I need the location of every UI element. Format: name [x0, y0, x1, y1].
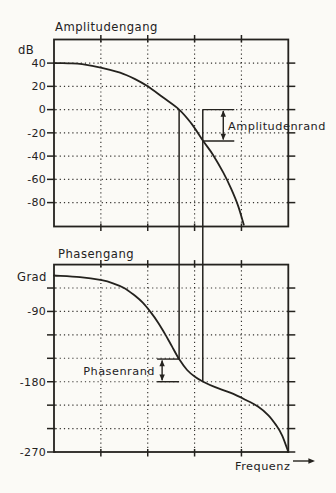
phase-response-ytick-label: -270 — [20, 446, 46, 459]
frequency-axis-label: Frequenz — [235, 460, 290, 473]
phase-title: Phasengang — [58, 247, 134, 261]
gain-margin-arrowhead-up — [221, 111, 226, 117]
amplitude-response-ytick-label: -40 — [27, 150, 46, 163]
amplitude-response-ytick-label: -60 — [27, 173, 46, 186]
phase-response-ytick-label: -180 — [20, 376, 46, 389]
amplitude-response-ytick-label: 40 — [31, 57, 46, 70]
amplitude-response: 40200-20-40-60-80 — [27, 35, 295, 231]
amplitude-response-ytick-label: 0 — [39, 103, 46, 116]
amplitude-response-ytick-label: -80 — [27, 196, 46, 209]
db-unit-label: dB — [18, 43, 34, 57]
bode-figure: 40200-20-40-60-80-90-180-270 Amplitudeng… — [0, 0, 336, 493]
phase-margin-arrowhead-down — [159, 375, 164, 381]
gain-margin-arrowhead-down — [221, 134, 226, 140]
crossover-marker-lines — [179, 110, 203, 382]
amplitude-response-ytick-label: -20 — [27, 127, 46, 140]
phase-margin-arrowhead-up — [159, 360, 164, 366]
grad-unit-label: Grad — [17, 270, 47, 284]
phase-response-ytick-label: -90 — [27, 305, 46, 318]
frequency-arrow-icon — [293, 458, 315, 463]
phase-margin-label: Phasenrand — [83, 365, 155, 378]
frequency-arrowhead — [308, 458, 315, 463]
amplitude-title: Amplitudengang — [55, 20, 158, 34]
phase-margin-annotation — [157, 359, 179, 382]
bode-plot: 40200-20-40-60-80-90-180-270 Amplitudeng… — [0, 0, 336, 493]
amplitude-response-ytick-label: 20 — [31, 80, 46, 93]
amplitude-response-curve — [54, 63, 244, 225]
gain-margin-label: Amplitudenrand — [228, 120, 326, 133]
